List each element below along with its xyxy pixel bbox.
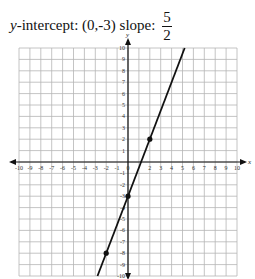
x-tick-label: 10 [234, 165, 240, 171]
y-tick-label: -8 [120, 250, 125, 256]
x-tick-label: 8 [214, 165, 217, 171]
x-tick-label: -2 [104, 165, 109, 171]
y-tick-label: 4 [122, 113, 125, 119]
y-tick-label: 6 [122, 91, 125, 97]
x-tick-label: 6 [192, 165, 195, 171]
x-tick-label: -5 [71, 165, 76, 171]
x-tick-label: 3 [159, 165, 162, 171]
y-tick-label: -2 [120, 182, 125, 188]
x-tick-label: 0 [127, 165, 130, 171]
x-tick-label: -6 [60, 165, 65, 171]
x-tick-label: -3 [93, 165, 98, 171]
x-tick-label: -8 [38, 165, 43, 171]
y-tick-label: 7 [122, 79, 125, 85]
x-tick-label: -9 [27, 165, 32, 171]
y-tick-label: -7 [120, 239, 125, 245]
x-tick-label: -1 [115, 165, 120, 171]
y-tick-label: 9 [122, 56, 125, 62]
y-axis-label: y [125, 31, 130, 39]
x-tick-label: 5 [181, 165, 184, 171]
x-tick-label: -7 [49, 165, 54, 171]
y-tick-label: -1 [120, 170, 125, 176]
x-tick-label: -10 [15, 165, 23, 171]
y-tick-label: 8 [122, 68, 125, 74]
x-axis-right-arrow-icon [240, 159, 247, 165]
y-tick-label: -9 [120, 262, 125, 268]
y-tick-label: -10 [117, 273, 125, 279]
y-tick-label: 10 [119, 45, 125, 51]
coordinate-plane: xy-10-9-8-7-6-5-4-3-2-102345678910109876… [0, 0, 255, 279]
x-tick-label: 4 [170, 165, 173, 171]
y-tick-label: 3 [122, 125, 125, 131]
y-tick-label: 5 [122, 102, 125, 108]
y-tick-label: -3 [120, 193, 125, 199]
x-tick-label: -4 [82, 165, 87, 171]
x-tick-label: 7 [203, 165, 206, 171]
data-point [104, 251, 109, 256]
data-point [125, 194, 130, 199]
x-tick-label: 2 [148, 165, 151, 171]
y-tick-label: 2 [122, 136, 125, 142]
x-axis-label: x [247, 158, 252, 166]
y-axis-up-arrow-icon [125, 38, 131, 45]
x-tick-label: 9 [225, 165, 228, 171]
data-point [147, 137, 152, 142]
y-tick-label: 1 [122, 148, 125, 154]
y-tick-label: -6 [120, 227, 125, 233]
